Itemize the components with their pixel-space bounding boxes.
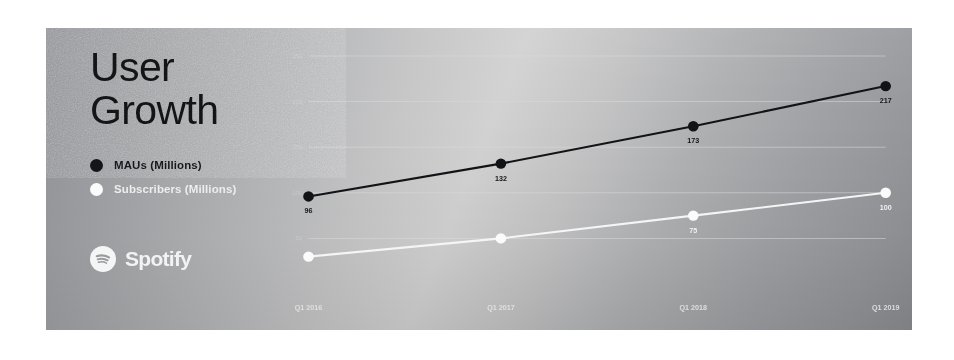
data-point-maus (303, 191, 314, 201)
left-panel: User Growth MAUs (Millions) Subscribers … (90, 46, 310, 207)
data-label-subscribers: 75 (689, 227, 697, 235)
x-axis-tick-label: Q1 2017 (487, 304, 515, 312)
x-axis-tick-label: Q1 2018 (680, 304, 708, 312)
data-point-subscribers (303, 251, 314, 261)
data-point-maus (496, 158, 507, 168)
legend-item-maus: MAUs (Millions) (90, 159, 310, 172)
page-title: User Growth (90, 46, 310, 133)
data-label-subscribers: 100 (880, 204, 892, 212)
data-label-maus: 132 (495, 175, 507, 183)
y-axis-tick-label: 250 (292, 53, 303, 59)
legend-label-subscribers: Subscribers (Millions) (114, 183, 236, 195)
user-growth-slide: User Growth MAUs (Millions) Subscribers … (46, 28, 912, 330)
y-axis-tick-label: 150 (292, 144, 303, 150)
chart-y-axis-labels: 50100150200250 (292, 53, 303, 241)
series-line-maus (309, 86, 886, 196)
data-label-maus: 173 (687, 137, 699, 145)
data-label-maus: 217 (880, 97, 892, 105)
chart-gridlines (309, 56, 886, 238)
y-axis-tick-label: 50 (296, 235, 303, 241)
brand-lockup: Spotify (90, 246, 191, 272)
chart-legend: MAUs (Millions) Subscribers (Millions) (90, 159, 310, 196)
series-line-subscribers (309, 193, 886, 257)
legend-swatch-subscribers-icon (90, 183, 103, 196)
chart-plot-area: 50100150200250 9613217321775100 Q1 2016Q… (286, 50, 900, 320)
spotify-logo-icon (90, 246, 116, 272)
chart-data-labels: 9613217321775100 (305, 97, 892, 234)
data-point-maus (688, 121, 699, 131)
legend-item-subscribers: Subscribers (Millions) (90, 183, 310, 196)
chart-series-lines (309, 86, 886, 257)
legend-label-maus: MAUs (Millions) (114, 159, 202, 171)
data-label-maus: 96 (305, 208, 313, 216)
line-chart: 50100150200250 9613217321775100 Q1 2016Q… (286, 50, 900, 320)
chart-x-axis-labels: Q1 2016Q1 2017Q1 2018Q1 2019 (295, 304, 900, 312)
x-axis-tick-label: Q1 2016 (295, 304, 323, 312)
data-point-subscribers (688, 210, 699, 220)
x-axis-tick-label: Q1 2019 (872, 304, 900, 312)
chart-data-points (303, 81, 891, 262)
data-point-subscribers (880, 188, 891, 198)
data-point-subscribers (496, 233, 507, 243)
y-axis-tick-label: 200 (292, 99, 303, 105)
brand-name: Spotify (125, 247, 191, 271)
y-axis-tick-label: 100 (292, 190, 303, 196)
data-point-maus (880, 81, 891, 91)
legend-swatch-maus-icon (90, 159, 103, 172)
